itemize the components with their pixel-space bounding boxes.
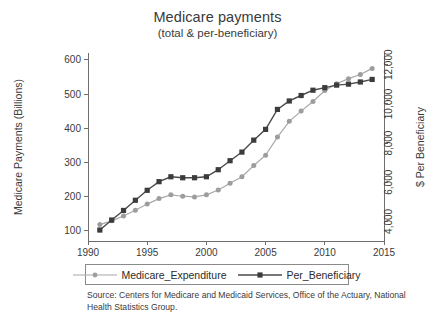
y2-tick-label: 12,000 — [383, 49, 394, 80]
chart-title: Medicare payments — [0, 8, 435, 26]
data-point-per-beneficiary — [275, 107, 280, 112]
data-point-per-beneficiary — [216, 167, 221, 172]
data-point-medicare-expenditure — [157, 196, 162, 201]
data-point-medicare-expenditure — [145, 202, 150, 207]
y2-tick-label: 10,000 — [383, 88, 394, 119]
data-point-per-beneficiary — [227, 158, 232, 163]
y2-tick-label: 6,000 — [383, 169, 394, 194]
data-point-medicare-expenditure — [228, 181, 233, 186]
legend-entry-beneficiary: Per_Beneficiary — [238, 269, 360, 281]
y-tick-label: 600 — [64, 54, 81, 65]
y2-tick-label: 8,000 — [383, 130, 394, 155]
circle-marker-icon — [73, 270, 117, 280]
chart-legend: Medicare_Expenditure Per_Beneficiary — [85, 264, 349, 285]
data-point-per-beneficiary — [263, 127, 268, 132]
data-point-per-beneficiary — [168, 174, 173, 179]
data-point-medicare-expenditure — [239, 174, 244, 179]
data-point-per-beneficiary — [121, 208, 126, 213]
source-note: Source: Centers for Medicare and Medicai… — [87, 289, 417, 314]
data-point-per-beneficiary — [358, 79, 363, 84]
x-tick-label: 2010 — [314, 247, 337, 258]
data-point-medicare-expenditure — [370, 66, 375, 71]
data-point-per-beneficiary — [204, 174, 209, 179]
x-tick-label: 2000 — [195, 247, 218, 258]
x-tick-label: 1990 — [77, 247, 100, 258]
data-point-per-beneficiary — [322, 85, 327, 90]
chart-title-block: Medicare payments (total & per-beneficia… — [0, 8, 435, 41]
y-axis-title: Medicare Payments (Billions) — [12, 79, 24, 215]
x-tick-label: 1995 — [136, 247, 159, 258]
data-point-per-beneficiary — [97, 227, 102, 232]
chart-subtitle: (total & per-beneficiary) — [0, 26, 435, 40]
data-point-medicare-expenditure — [168, 192, 173, 197]
data-point-per-beneficiary — [251, 138, 256, 143]
chart-figure: Medicare payments (total & per-beneficia… — [0, 0, 435, 322]
data-point-medicare-expenditure — [263, 153, 268, 158]
y-tick-label: 100 — [64, 225, 81, 236]
y-tick-label: 200 — [64, 191, 81, 202]
data-point-per-beneficiary — [133, 198, 138, 203]
data-point-per-beneficiary — [287, 98, 292, 103]
data-point-medicare-expenditure — [97, 222, 102, 227]
data-point-medicare-expenditure — [287, 119, 292, 124]
data-point-per-beneficiary — [192, 175, 197, 180]
data-point-medicare-expenditure — [358, 72, 363, 77]
y2-axis-title: $ Per Beneficiary — [414, 106, 426, 187]
data-point-per-beneficiary — [145, 188, 150, 193]
x-tick-label: 2005 — [254, 247, 277, 258]
series-line-medicare-expenditure — [100, 68, 372, 224]
legend-entry-expenditure: Medicare_Expenditure — [73, 269, 226, 281]
data-point-per-beneficiary — [346, 82, 351, 87]
data-point-per-beneficiary — [156, 179, 161, 184]
data-point-per-beneficiary — [310, 88, 315, 93]
legend-label-beneficiary: Per_Beneficiary — [286, 269, 360, 281]
square-marker-icon — [238, 270, 282, 280]
y-tick-label: 400 — [64, 123, 81, 134]
y-tick-label: 300 — [64, 157, 81, 168]
data-point-medicare-expenditure — [133, 208, 138, 213]
data-point-medicare-expenditure — [204, 192, 209, 197]
data-point-medicare-expenditure — [346, 76, 351, 81]
data-point-medicare-expenditure — [275, 135, 280, 140]
data-point-medicare-expenditure — [251, 163, 256, 168]
data-point-medicare-expenditure — [216, 188, 221, 193]
data-point-per-beneficiary — [239, 149, 244, 154]
data-point-medicare-expenditure — [180, 194, 185, 199]
legend-label-expenditure: Medicare_Expenditure — [121, 269, 226, 281]
x-tick-label: 2015 — [373, 247, 396, 258]
data-point-medicare-expenditure — [121, 214, 126, 219]
data-point-medicare-expenditure — [192, 194, 197, 199]
y-tick-label: 500 — [64, 89, 81, 100]
y2-tick-label: 4,000 — [383, 208, 394, 233]
data-point-per-beneficiary — [109, 217, 114, 222]
data-point-per-beneficiary — [334, 83, 339, 88]
data-point-medicare-expenditure — [310, 99, 315, 104]
data-point-per-beneficiary — [180, 175, 185, 180]
data-point-medicare-expenditure — [299, 109, 304, 114]
data-point-per-beneficiary — [370, 77, 375, 82]
data-point-per-beneficiary — [299, 93, 304, 98]
